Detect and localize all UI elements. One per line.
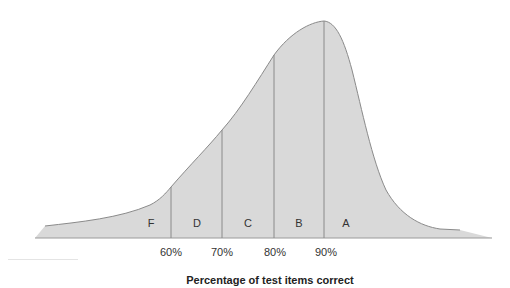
faint-rule [8,259,78,260]
grade-label-b: B [295,217,302,229]
x-axis-title: Percentage of test items correct [0,274,510,286]
tick-label-70: 70% [211,246,233,258]
grade-label-a: A [342,217,349,229]
grade-label-f: F [148,217,155,229]
distribution-area [35,21,492,238]
grade-label-c: C [244,217,252,229]
tick-label-60: 60% [160,246,182,258]
skewed-distribution-chart [0,0,510,288]
tick-label-80: 80% [264,246,286,258]
grade-label-d: D [193,217,201,229]
tick-label-90: 90% [315,246,337,258]
